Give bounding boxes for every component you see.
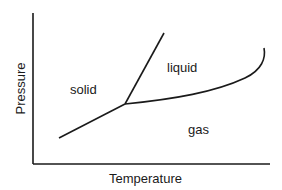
region-label-solid: solid [70,83,97,96]
y-axis-label: Pressure [14,63,27,115]
solid-liquid-boundary [125,33,164,104]
liquid-gas-boundary [125,48,264,104]
x-axis-label: Temperature [109,172,182,185]
region-label-gas: gas [188,123,209,136]
region-label-liquid: liquid [167,61,197,74]
solid-gas-boundary [59,104,125,138]
phase-diagram [0,0,282,190]
